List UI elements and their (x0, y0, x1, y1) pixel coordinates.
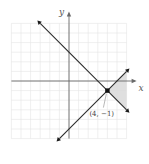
y-axis-label: y (58, 7, 65, 17)
annotation-leader-line (103, 94, 106, 108)
intersection-point (105, 88, 109, 92)
boundary-line-2 (59, 71, 126, 138)
boundary-line-1 (40, 23, 126, 109)
x-axis-arrow-icon (132, 79, 137, 83)
intersection-annotation: (4, −1) (89, 110, 114, 118)
points (105, 88, 109, 92)
inequality-graph: x y (4, −1) (0, 0, 149, 164)
x-axis-label: x (139, 83, 144, 93)
y-axis-arrow-icon (67, 11, 71, 16)
